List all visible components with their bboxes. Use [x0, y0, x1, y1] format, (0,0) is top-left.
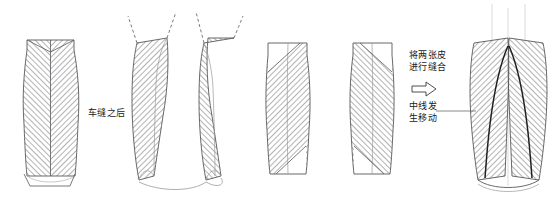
- figure-panel-flat-right: [347, 38, 399, 180]
- annotation-after-sewing-text: 车缝之后: [88, 108, 125, 120]
- hatch-fill-left-panel: [128, 32, 176, 187]
- annotation-centerline-line-2: 生移动: [409, 113, 437, 125]
- construction-dash-4: [234, 16, 243, 38]
- annotation-centerline-shift: 中线发 生移动: [409, 101, 437, 124]
- right-arrow-outline-icon: [412, 82, 436, 96]
- figure-panel-joined-result: [436, 4, 553, 192]
- annotation-centerline-line-1: 中线发: [409, 101, 437, 113]
- technical-diagram: 车缝之后 将两张皮 进行缝合 中线发 生移动: [0, 0, 557, 202]
- annotation-join-two-pieces: 将两张皮 进行缝合: [409, 50, 446, 73]
- hatch-fill-left: [466, 32, 514, 187]
- figure-panel-sewn-single: [20, 35, 88, 186]
- figure-panel-flat-left: [262, 38, 314, 180]
- pair-base-curve: [139, 182, 206, 190]
- hatch-fill: [262, 38, 314, 180]
- construction-dash-3: [196, 12, 204, 43]
- figure-panel-pair-separated: [128, 12, 243, 190]
- annotation-join-line-1: 将两张皮: [409, 50, 446, 62]
- construction-dash-2: [128, 16, 137, 43]
- annotation-after-sewing: 车缝之后: [88, 108, 125, 120]
- hatch-fill-right: [48, 35, 88, 185]
- annotation-join-line-2: 进行缝合: [409, 62, 446, 74]
- bottom-curve: [478, 180, 539, 188]
- bottom-curve-line: [27, 176, 75, 182]
- panel-diagram-canvas: [0, 0, 557, 202]
- construction-dash-1: [167, 12, 176, 38]
